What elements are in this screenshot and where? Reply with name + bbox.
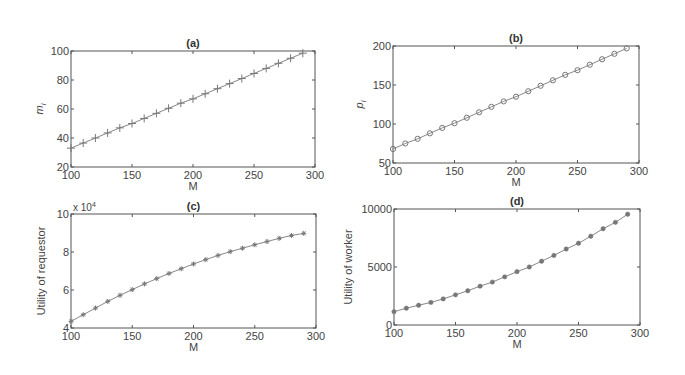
y-tick-label: 60 xyxy=(57,103,69,115)
y-axis-label: Utility of worker xyxy=(342,229,354,305)
x-tick-label: 250 xyxy=(569,327,587,339)
figure: 10015020025030020406080100(a)Mmi10015020… xyxy=(0,0,685,375)
data-point-asterisk xyxy=(105,299,110,304)
x-tick-label: 300 xyxy=(630,165,648,177)
data-point-plus xyxy=(287,54,295,62)
data-point-asterisk xyxy=(81,312,86,317)
data-point-plus xyxy=(91,134,99,142)
y-tick-label: 100 xyxy=(51,45,69,57)
data-point-dot xyxy=(601,227,605,231)
data-point-asterisk xyxy=(228,249,233,254)
subplot-c: 10015020025030046810(c)MUtility of reque… xyxy=(35,200,325,353)
data-line xyxy=(71,53,303,148)
data-point-asterisk xyxy=(265,239,270,244)
y-tick-label: 20 xyxy=(57,161,69,173)
data-point-asterisk xyxy=(69,319,74,324)
data-point-dot xyxy=(416,303,420,307)
data-point-asterisk xyxy=(154,276,159,281)
x-tick-label: 300 xyxy=(306,169,324,181)
data-point-dot xyxy=(453,293,457,297)
axes-frame xyxy=(71,51,315,167)
subplot-b: 10015020025030050100150200(b)Mpi xyxy=(353,32,648,188)
data-point-plus xyxy=(226,80,234,88)
data-point-dot xyxy=(626,212,630,216)
data-point-plus xyxy=(238,75,246,83)
subplot-title: (d) xyxy=(510,195,524,207)
x-tick-label: 300 xyxy=(631,327,649,339)
data-point-dot xyxy=(429,300,433,304)
data-line xyxy=(394,214,628,311)
x-tick-label: 300 xyxy=(307,330,325,342)
y-tick-label: 6 xyxy=(63,284,69,296)
data-point-plus xyxy=(165,104,173,112)
x-tick-label: 150 xyxy=(446,327,464,339)
data-point-asterisk xyxy=(167,271,172,276)
x-tick-label: 250 xyxy=(246,330,264,342)
x-axis-label: M xyxy=(188,180,197,192)
data-line xyxy=(71,233,304,321)
x-tick-label: 150 xyxy=(445,165,463,177)
data-point-dot xyxy=(576,241,580,245)
x-axis-label: M xyxy=(511,176,520,188)
data-point-dot xyxy=(441,297,445,301)
subplot-title: (a) xyxy=(186,37,200,49)
y-tick-label: 200 xyxy=(373,40,391,52)
data-point-asterisk xyxy=(142,281,147,286)
data-point-plus xyxy=(152,109,160,117)
data-point-plus xyxy=(128,120,136,128)
data-point-dot xyxy=(404,306,408,310)
y-tick-label: 80 xyxy=(57,74,69,86)
data-point-plus xyxy=(104,129,112,137)
x-axis-label: M xyxy=(189,341,198,353)
data-point-asterisk xyxy=(203,257,208,262)
data-point-plus xyxy=(274,59,282,67)
data-point-asterisk xyxy=(179,266,184,271)
y-axis-label: pi xyxy=(353,100,368,109)
data-point-asterisk xyxy=(301,231,306,236)
subplot-d: 1001502002503000500010000(d)MUtility of … xyxy=(342,195,649,350)
data-point-dot xyxy=(589,234,593,238)
y-tick-label: 10000 xyxy=(361,203,392,215)
data-point-dot xyxy=(527,265,531,269)
data-point-asterisk xyxy=(277,236,282,241)
data-point-dot xyxy=(564,247,568,251)
data-point-dot xyxy=(515,269,519,273)
data-point-plus xyxy=(79,139,87,147)
data-point-plus xyxy=(299,49,307,57)
data-point-asterisk xyxy=(93,306,98,311)
x-tick-label: 150 xyxy=(123,330,141,342)
data-point-asterisk xyxy=(289,233,294,238)
data-point-plus xyxy=(262,64,270,72)
x-tick-label: 250 xyxy=(245,169,263,181)
x-axis-label: M xyxy=(512,338,521,350)
data-point-dot xyxy=(503,275,507,279)
y-axis-label: mi xyxy=(33,103,48,114)
data-point-dot xyxy=(466,289,470,293)
y-tick-label: 40 xyxy=(57,132,69,144)
y-tick-label: 100 xyxy=(373,118,391,130)
subplot-title: (b) xyxy=(509,32,523,44)
data-point-asterisk xyxy=(252,242,257,247)
y-tick-label: 0 xyxy=(386,319,392,331)
data-point-dot xyxy=(478,284,482,288)
data-point-plus xyxy=(250,69,258,77)
y-tick-label: 10 xyxy=(57,208,69,220)
y-axis-label: Utility of requestor xyxy=(35,226,47,315)
data-point-asterisk xyxy=(216,253,221,258)
data-point-dot xyxy=(552,253,556,257)
x-tick-label: 150 xyxy=(123,169,141,181)
data-point-asterisk xyxy=(240,246,245,251)
data-point-plus xyxy=(67,144,75,152)
subplot-title: (c) xyxy=(187,200,201,212)
data-point-plus xyxy=(116,124,124,132)
y-tick-label: 50 xyxy=(379,157,391,169)
axes-frame xyxy=(393,46,639,163)
axes-frame xyxy=(71,214,316,328)
data-point-dot xyxy=(392,309,396,313)
data-point-plus xyxy=(189,95,197,103)
data-point-plus xyxy=(201,90,209,98)
data-point-plus xyxy=(177,99,185,107)
y-tick-label: 150 xyxy=(373,79,391,91)
data-point-dot xyxy=(539,259,543,263)
data-point-asterisk xyxy=(118,293,123,298)
